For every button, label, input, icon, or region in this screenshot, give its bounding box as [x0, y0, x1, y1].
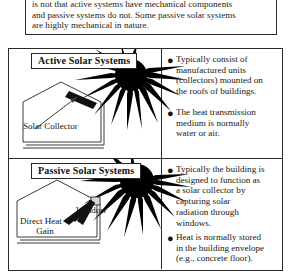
- bullet-text: Heat is normally stored in the building …: [176, 232, 280, 264]
- solar-collector-label: Solar Collector: [23, 121, 78, 131]
- bullet-icon: ●: [167, 164, 176, 176]
- bullet-text: Typically consist of manufactured units …: [176, 54, 280, 97]
- bullet-icon: ●: [167, 232, 176, 244]
- diagram-frame: Active Solar Systems Solar Collector ● T…: [8, 48, 283, 271]
- active-section-title: Active Solar Systems: [31, 53, 137, 69]
- list-item: ● Heat is normally stored in the buildin…: [167, 232, 280, 264]
- direct-heat-gain-line2: Gain: [20, 226, 62, 236]
- direct-heat-gain-line1: Direct Heat: [20, 216, 62, 226]
- active-solar-panel: Active Solar Systems Solar Collector ● T…: [9, 49, 282, 159]
- bullet-icon: ●: [167, 107, 176, 119]
- bullet-text: The heat transmission medium is normally…: [176, 107, 280, 139]
- bullet-text: Typically the building is designed to fu…: [176, 164, 280, 228]
- intro-text-box: is not that active systems have mechanic…: [25, 0, 277, 35]
- bullet-icon: ●: [167, 54, 176, 66]
- window-label: Window: [76, 205, 107, 215]
- list-item: ● The heat transmission medium is normal…: [167, 107, 280, 139]
- intro-paragraph: is not that active systems have mechanic…: [32, 0, 274, 31]
- figure-page: is not that active systems have mechanic…: [0, 0, 291, 280]
- passive-section-title: Passive Solar Systems: [31, 163, 141, 179]
- direct-heat-gain-label: Direct Heat Gain: [20, 216, 62, 236]
- list-item: ● Typically consist of manufactured unit…: [167, 54, 280, 97]
- passive-solar-panel: Passive Solar Systems Window Direct Heat…: [9, 159, 282, 269]
- list-item: ● Typically the building is designed to …: [167, 164, 280, 228]
